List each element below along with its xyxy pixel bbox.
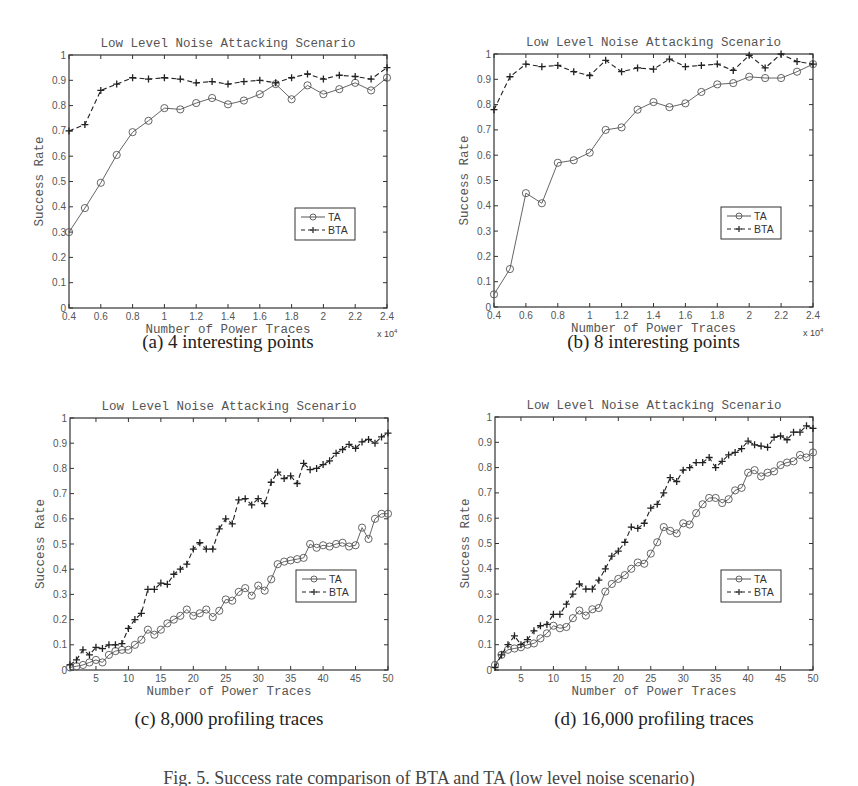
figure-caption: Fig. 5. Success rate comparison of BTA a…	[0, 768, 858, 786]
bta-marker	[764, 444, 771, 451]
bta-marker	[654, 501, 661, 508]
bta-marker	[673, 478, 680, 485]
bta-marker	[543, 621, 550, 628]
bta-marker	[667, 474, 674, 481]
subcaption-b: (b) 8 interesting points	[504, 331, 804, 353]
bta-marker	[686, 464, 693, 471]
x-tick-label: 30	[678, 673, 690, 684]
x-axis-label: Number of Power Traces	[571, 685, 736, 699]
subcaption-a: (a) 4 interesting points	[78, 331, 378, 353]
y-tick-label: 0.4	[478, 563, 492, 574]
bta-marker	[556, 611, 563, 618]
y-tick-label: 0.6	[478, 513, 492, 524]
y-tick-label: 0.8	[478, 462, 492, 473]
x-tick-label: 40	[743, 673, 755, 684]
legend-label: BTA	[754, 586, 774, 598]
bta-marker	[751, 441, 758, 448]
chart-title: Low Level Noise Attacking Scenario	[526, 399, 781, 413]
bta-marker	[810, 425, 817, 432]
series-ta-line	[495, 452, 813, 665]
bta-marker	[621, 539, 628, 546]
y-tick-label: 0.2	[478, 614, 492, 625]
y-tick-label: 0.7	[478, 487, 492, 498]
bta-marker	[680, 467, 687, 474]
bta-marker	[706, 454, 713, 461]
bta-marker	[530, 627, 537, 634]
y-tick-label: 0.5	[478, 538, 492, 549]
bta-marker	[563, 601, 570, 608]
bta-marker	[569, 591, 576, 598]
chart-d-plot: Low Level Noise Attacking Scenario00.10.…	[0, 0, 858, 786]
subcaption-d: (d) 16,000 profiling traces	[504, 708, 804, 730]
series-bta-line	[495, 426, 813, 668]
bta-marker	[647, 505, 654, 512]
bta-marker	[777, 432, 784, 439]
y-axis-label: Success Rate	[459, 498, 473, 588]
x-tick-label: 20	[613, 673, 625, 684]
x-tick-label: 5	[518, 673, 524, 684]
subcaption-c: (c) 8,000 profiling traces	[79, 708, 379, 730]
y-tick-label: 0.1	[478, 639, 492, 650]
x-tick-label: 45	[775, 673, 787, 684]
y-tick-label: 0.9	[478, 437, 492, 448]
x-tick-label: 15	[580, 673, 592, 684]
bta-marker	[582, 586, 589, 593]
y-tick-label: 0.3	[478, 589, 492, 600]
legend-label: TA	[754, 573, 767, 585]
bta-marker	[771, 434, 778, 441]
bta-marker	[628, 524, 635, 531]
bta-marker	[693, 459, 700, 466]
x-tick-label: 10	[548, 673, 560, 684]
legend: TABTA	[721, 570, 781, 602]
x-tick-label: 25	[645, 673, 657, 684]
y-tick-label: 1	[486, 412, 492, 423]
bta-marker	[595, 577, 602, 584]
bta-marker	[602, 565, 609, 572]
x-tick-label: 35	[710, 673, 722, 684]
x-tick-label: 50	[807, 673, 819, 684]
bta-marker	[660, 489, 667, 496]
bta-marker	[732, 449, 739, 456]
bta-marker	[550, 611, 557, 618]
bta-marker	[758, 443, 765, 450]
